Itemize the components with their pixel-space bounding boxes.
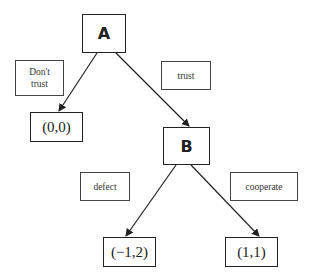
edge-label-cooperate: cooperate	[230, 172, 298, 201]
cooperate-text: cooperate	[246, 181, 283, 193]
edge-label-dont-trust: Don't trust	[15, 60, 64, 96]
node-b-label: B	[180, 137, 192, 156]
edge-label-defect: defect	[80, 172, 130, 201]
payoff-dont-trust: (0,0)	[30, 112, 83, 142]
edge-a-to-dont-trust	[59, 53, 97, 111]
node-a-label: A	[98, 24, 110, 43]
trust-text: trust	[178, 70, 195, 82]
payoff-dont-trust-text: (0,0)	[42, 119, 71, 136]
payoff-cooperate-text: (1,1)	[237, 244, 266, 261]
node-a: A	[82, 14, 126, 53]
dont-trust-text: Don't trust	[25, 66, 55, 90]
payoff-cooperate: (1,1)	[225, 237, 278, 267]
payoff-defect: (−1,2)	[103, 237, 156, 267]
edge-b-to-defect	[126, 165, 176, 236]
payoff-defect-text: (−1,2)	[111, 244, 148, 261]
edge-label-trust: trust	[161, 61, 211, 90]
node-b: B	[163, 127, 210, 165]
defect-text: defect	[93, 181, 116, 193]
